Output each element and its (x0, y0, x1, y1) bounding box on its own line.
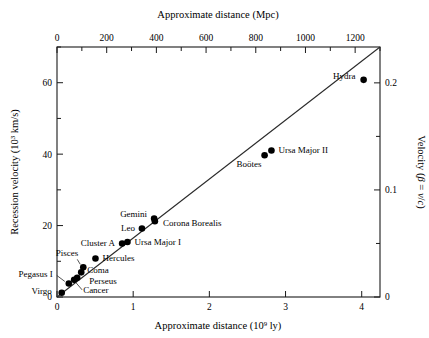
left-tick-label: 40 (43, 150, 53, 160)
left-axis-title: Recession velocity (103 km/s) (9, 109, 22, 235)
top-axis-title: Approximate distance (Mpc) (157, 9, 279, 21)
data-point (124, 239, 131, 246)
right-axis-title-group: Velocity (β = v/c) (415, 135, 427, 209)
bottom-tick-label: 1 (131, 302, 136, 312)
data-point (80, 264, 87, 271)
right-tick-label: 0 (385, 292, 390, 302)
galaxy-label: Cluster A (81, 238, 116, 248)
galaxy-label: Perseus (89, 276, 117, 286)
galaxy-label: Pegasus I (19, 269, 53, 279)
right-tick-label: 0.1 (385, 185, 397, 195)
data-point (152, 218, 159, 225)
data-point (74, 274, 81, 281)
galaxy-label: Coma (87, 265, 109, 275)
data-point (139, 225, 146, 232)
galaxy-label: Pisces (56, 248, 79, 258)
data-point (360, 77, 367, 84)
top-tick-label: 400 (149, 33, 164, 43)
galaxy-label: Leo (121, 223, 135, 233)
data-point (268, 147, 275, 154)
right-axis-title: Velocity (β = v/c) (415, 135, 427, 209)
galaxy-label: Gemini (120, 209, 147, 219)
top-tick-label: 1200 (346, 33, 365, 43)
galaxy-label: Boötes (237, 159, 262, 169)
hubble-diagram-figure: Approximate distance (Mpc) Approximate d… (0, 0, 429, 338)
left-axis-title-group: Recession velocity (103 km/s) (9, 109, 22, 235)
chart-canvas: Approximate distance (Mpc) Approximate d… (0, 0, 429, 338)
data-point (261, 152, 268, 159)
galaxy-label: Virgo (31, 286, 52, 296)
figure-background (0, 0, 429, 338)
galaxy-label: Cancer (83, 285, 108, 295)
top-tick-label: 0 (55, 33, 60, 43)
top-tick-label: 800 (249, 33, 264, 43)
top-tick-label: 200 (100, 33, 115, 43)
bottom-tick-label: 2 (207, 302, 212, 312)
top-tick-label: 600 (199, 33, 214, 43)
galaxy-label: Ursa Major II (278, 145, 327, 155)
left-tick-label: 20 (43, 221, 53, 231)
galaxy-label: Corona Borealis (163, 218, 222, 228)
bottom-axis-title: Approximate distance (109 ly) (155, 320, 282, 333)
bottom-tick-label: 4 (359, 302, 364, 312)
data-point (58, 289, 65, 296)
bottom-tick-label: 0 (55, 302, 60, 312)
right-tick-label: 0.2 (385, 78, 397, 88)
data-point (92, 255, 99, 262)
left-tick-label: 60 (43, 78, 53, 88)
galaxy-label: Hercules (102, 253, 134, 263)
top-tick-label: 1000 (296, 33, 315, 43)
galaxy-label: Hydra (333, 71, 356, 81)
bottom-tick-label: 3 (283, 302, 288, 312)
galaxy-label: Ursa Major I (134, 237, 181, 247)
